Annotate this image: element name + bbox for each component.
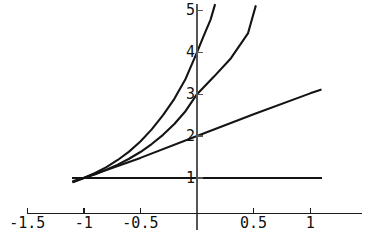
- y-tick-label: 4: [186, 43, 195, 61]
- x-tick-label: -0.5: [122, 214, 158, 232]
- y-tick-label: 5: [186, 1, 195, 19]
- chart-background: [0, 0, 369, 242]
- chart-svg: -1.5-1-0.50.51 12345: [0, 0, 369, 242]
- x-tick-label: 0.5: [240, 214, 267, 232]
- chart-figure: -1.5-1-0.50.51 12345: [0, 0, 369, 242]
- y-tick-label: 1: [186, 169, 195, 187]
- y-tick-label: 2: [186, 127, 195, 145]
- x-tick-label: -1: [75, 214, 93, 232]
- y-tick-label: 3: [186, 85, 195, 103]
- x-tick-label: -1.5: [9, 214, 45, 232]
- x-tick-label: 1: [306, 214, 315, 232]
